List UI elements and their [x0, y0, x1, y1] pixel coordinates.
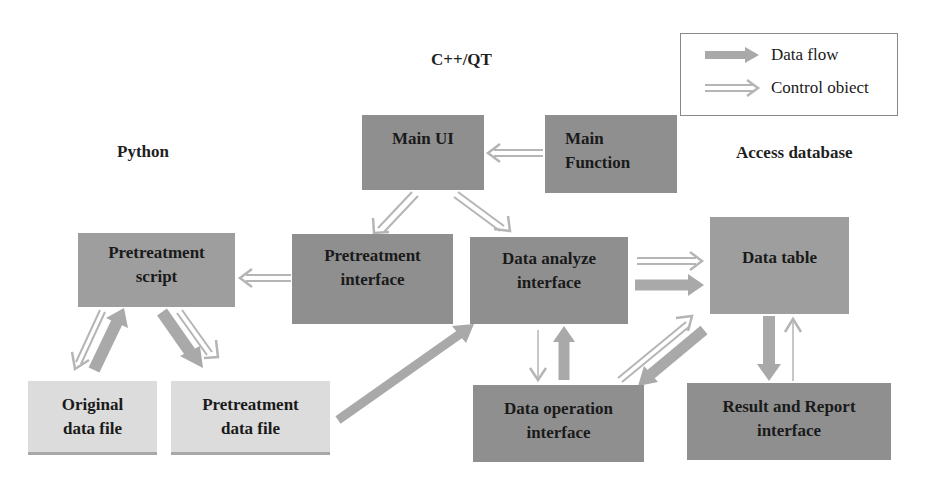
- box-main-function-line1: Main: [565, 127, 604, 151]
- control-arrow-analyze-to-operation: [530, 330, 546, 380]
- control-arrow-result-to-table: [785, 319, 801, 381]
- box-pretreatment-interface-line1: Pretreatment: [324, 244, 421, 268]
- box-data-operation-interface: Data operation interface: [473, 385, 644, 462]
- box-data-operation-interface-line2: interface: [526, 421, 590, 445]
- data-arrow-operation-to-analyze: [553, 326, 575, 380]
- legend-label-data-flow: Data flow: [771, 45, 839, 65]
- box-result-report-interface-line2: interface: [757, 419, 821, 443]
- control-arrow-icon: [705, 79, 761, 97]
- box-pretreatment-data-file-line1: Pretreatment: [202, 393, 299, 417]
- box-data-analyze-interface: Data analyze interface: [470, 237, 628, 324]
- legend-item-control-object: Control obiect: [705, 78, 869, 98]
- data-flow-arrow-icon: [705, 46, 761, 64]
- legend-item-data-flow: Data flow: [705, 45, 839, 65]
- box-original-data-file: Original data file: [28, 381, 157, 455]
- control-arrow-mainui-to-pretreatment-interface: [373, 192, 418, 233]
- box-result-report-interface-line1: Result and Report: [722, 395, 855, 419]
- section-label-python: Python: [117, 142, 169, 162]
- box-pretreatment-data-file-line2: data file: [221, 417, 280, 441]
- data-arrow-table-to-operation: [638, 330, 704, 386]
- control-arrow-data-analyze-to-table: [637, 252, 702, 270]
- data-arrow-table-to-result: [757, 316, 781, 381]
- legend: Data flow Control obiect: [680, 33, 898, 116]
- control-arrow-pretreatment-interface-to-script: [240, 269, 291, 287]
- box-main-ui-line1: Main UI: [392, 127, 454, 151]
- data-arrow-original-file-to-script: [94, 308, 128, 370]
- box-pretreatment-interface-line2: interface: [340, 268, 404, 292]
- box-original-data-file-line1: Original: [62, 393, 123, 417]
- box-main-ui: Main UI: [362, 115, 484, 190]
- box-data-operation-interface-line1: Data operation: [504, 397, 613, 421]
- box-data-table-line1: Data table: [742, 246, 817, 270]
- box-main-function-line2: Function: [565, 151, 630, 175]
- section-label-access-database: Access database: [736, 143, 853, 163]
- data-arrow-pretreatment-file-to-analyze: [338, 324, 474, 420]
- box-pretreatment-script: Pretreatment script: [78, 233, 235, 307]
- box-pretreatment-script-line2: script: [136, 265, 178, 289]
- section-label-cpp-qt: C++/QT: [431, 50, 492, 70]
- box-main-function: Main Function: [545, 115, 677, 193]
- box-result-report-interface: Result and Report interface: [687, 383, 891, 460]
- control-arrow-mainui-to-data-analyze: [454, 192, 510, 231]
- box-data-table: Data table: [710, 217, 849, 314]
- box-data-analyze-interface-line1: Data analyze: [502, 247, 596, 271]
- box-pretreatment-script-line1: Pretreatment: [108, 241, 205, 265]
- box-pretreatment-data-file: Pretreatment data file: [171, 381, 330, 455]
- box-original-data-file-line2: data file: [63, 417, 122, 441]
- box-pretreatment-interface: Pretreatment interface: [292, 234, 453, 324]
- data-arrow-analyze-to-table: [635, 274, 704, 296]
- legend-label-control-object: Control obiect: [771, 78, 869, 98]
- box-data-analyze-interface-line2: interface: [517, 271, 581, 295]
- control-arrow-mainfunction-to-mainui: [488, 144, 543, 162]
